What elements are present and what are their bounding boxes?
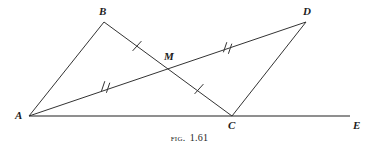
tick-M-D: [223, 42, 231, 54]
vertex-label-A: A: [15, 110, 22, 121]
segment-A-B: [29, 22, 104, 116]
segment-A-D-through-M: [29, 22, 306, 116]
vertex-label-C: C: [228, 120, 235, 131]
vertex-label-B: B: [99, 6, 106, 17]
tick-B-M: [133, 41, 142, 51]
figure-caption: Fig.1.61: [0, 132, 379, 143]
vertex-label-D: D: [303, 6, 311, 17]
figure-caption-number: 1.61: [190, 132, 209, 143]
geometry-canvas: [0, 0, 379, 153]
figure-caption-prefix: Fig.: [171, 132, 186, 143]
vertex-label-E: E: [353, 120, 360, 131]
geometry-figure: A B C D E M Fig.1.61: [0, 0, 379, 153]
vertex-label-M: M: [164, 51, 174, 62]
segment-C-D: [232, 22, 306, 116]
